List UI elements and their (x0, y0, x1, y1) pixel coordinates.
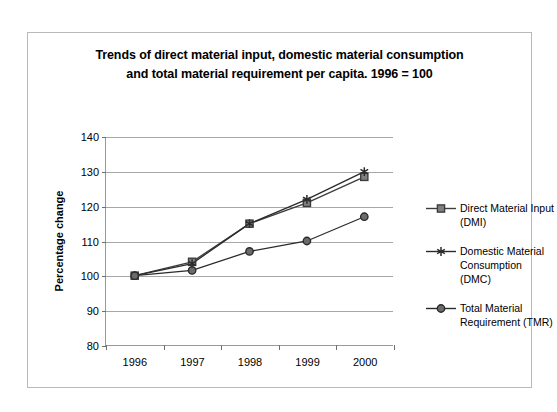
y-tick-label: 140 (81, 131, 99, 143)
series-layer (106, 137, 393, 345)
chart-title-line-1: Trends of direct material input, domesti… (28, 46, 531, 65)
circle-marker (131, 272, 138, 279)
x-tick-mark (164, 345, 165, 350)
legend-label: Domestic Material (460, 244, 554, 258)
legend-label: Requirement (TMR) (460, 315, 554, 329)
legend-label: Direct Material Input (460, 201, 554, 215)
chart-title: Trends of direct material input, domesti… (28, 46, 531, 84)
square-marker (437, 205, 444, 212)
circle-marker (361, 213, 368, 220)
x-tick-mark (221, 345, 222, 350)
circle-marker (188, 267, 195, 274)
x-tick-mark (279, 345, 280, 350)
legend-square-icon (426, 202, 456, 215)
x-tick-mark (336, 345, 337, 350)
legend-entry: Total MaterialRequirement (TMR) (426, 301, 554, 329)
legend-label: Total Material (460, 301, 554, 315)
y-tick-label: 110 (81, 236, 99, 248)
x-tick-label: 2000 (353, 356, 377, 368)
chart-title-line-2: and total material requirement per capit… (28, 65, 531, 84)
legend-entry: Direct Material Input(DMI) (426, 201, 554, 229)
legend-asterisk-icon (426, 245, 456, 258)
y-tick-label: 80 (87, 340, 99, 352)
plot-area: 8090100110120130140 19961997199819992000 (105, 137, 393, 346)
legend-label: Consumption (DMC) (460, 258, 554, 286)
y-tick-label: 100 (81, 270, 99, 282)
circle-marker (303, 237, 310, 244)
y-axis-title: Percentage change (53, 191, 65, 292)
circle-marker (246, 248, 253, 255)
x-tick-mark (106, 345, 107, 350)
chart-legend: Direct Material Input(DMI)Domestic Mater… (426, 201, 554, 344)
x-tick-label: 1996 (123, 356, 147, 368)
x-tick-label: 1998 (238, 356, 262, 368)
y-tick-label: 90 (87, 305, 99, 317)
y-tick-label: 120 (81, 201, 99, 213)
y-tick-label: 130 (81, 166, 99, 178)
legend-label: (DMI) (460, 215, 554, 229)
legend-entry: Domestic MaterialConsumption (DMC) (426, 244, 554, 286)
x-tick-label: 1999 (295, 356, 319, 368)
circle-marker (437, 305, 444, 312)
x-tick-label: 1997 (180, 356, 204, 368)
x-tick-mark (394, 345, 395, 350)
chart-container: Trends of direct material input, domesti… (27, 32, 532, 388)
legend-circle-icon (426, 302, 456, 315)
